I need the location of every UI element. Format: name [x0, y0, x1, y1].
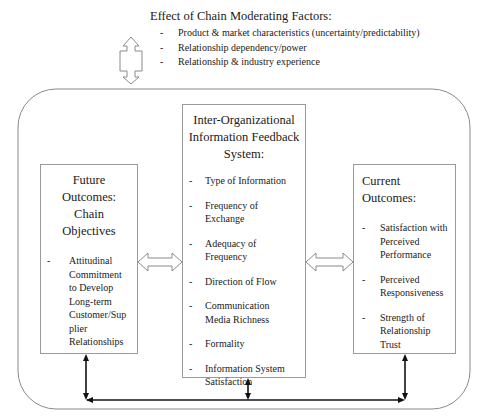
factor-text: Product & market characteristics (uncert… [178, 26, 420, 41]
bullet-dash: - [41, 254, 69, 349]
text-line: Responsiveness [380, 286, 455, 300]
item-text: Perceived Responsiveness [380, 273, 455, 300]
list-item: - Satisfaction with Perceived Performanc… [354, 221, 455, 262]
text-line: Perceived [380, 273, 455, 287]
bullet-dash: - [354, 273, 380, 300]
title-line: Chain [41, 206, 137, 223]
list-item: - Direction of Flow [183, 275, 305, 289]
title-line: Future [41, 172, 137, 189]
box-title: Future Outcomes: Chain Objectives [41, 172, 137, 240]
title-line: Inter-Organizational [183, 112, 305, 129]
bullet-dash: - [160, 41, 178, 56]
bullet-dash: - [183, 275, 205, 289]
bullet-dash: - [183, 299, 205, 326]
title-line: Information Feedback [183, 129, 305, 146]
text-line: Frequency of [205, 199, 305, 213]
list-item: - Type of Information [183, 174, 305, 188]
list-item: - Adequacy of Frequency [183, 237, 305, 264]
bullet-dash: - [160, 55, 178, 70]
bullet-dash: - [183, 174, 205, 188]
item-text: Formality [205, 337, 305, 351]
text-line: Trust [380, 338, 455, 352]
text-line: Satisfaction [205, 375, 305, 389]
factor-text: Relationship dependency/power [178, 41, 307, 56]
moderating-factors-title: Effect of Chain Moderating Factors: [150, 9, 332, 24]
text-line: Relationship [380, 324, 455, 338]
item-text: Communication Media Richness [205, 299, 305, 326]
list-item: - Relationship & industry experience [160, 55, 420, 70]
bullet-dash: - [183, 362, 205, 389]
text-line: Customer/Sup [69, 308, 137, 322]
item-text: Satisfaction with Perceived Performance [380, 221, 455, 262]
list-item: - Information System Satisfaction [183, 362, 305, 389]
moderating-factors-list: - Product & market characteristics (unce… [160, 26, 420, 70]
text-line: Long-term [69, 295, 137, 309]
item-text: Information System Satisfaction [205, 362, 305, 389]
left-right-hollow-arrow-icon [306, 253, 353, 271]
item-text: Adequacy of Frequency [205, 237, 305, 264]
bullet-dash: - [183, 337, 205, 351]
text-line: to Develop [69, 281, 137, 295]
bullet-dash: - [183, 237, 205, 264]
list-item: - Frequency of Exchange [183, 199, 305, 226]
text-line: Adequacy of [205, 237, 305, 251]
text-line: Media Richness [205, 313, 305, 327]
box-title: Inter-Organizational Information Feedbac… [183, 112, 305, 163]
item-text: Direction of Flow [205, 275, 305, 289]
list-item: - Product & market characteristics (unce… [160, 26, 420, 41]
box-title: Current Outcomes: [354, 173, 455, 207]
text-line: Exchange [205, 212, 305, 226]
text-line: Attitudinal [69, 254, 137, 268]
text-line: plier [69, 322, 137, 336]
text-line: Type of Information [205, 174, 305, 188]
title-line: Objectives [41, 223, 137, 240]
future-outcomes-box: Future Outcomes: Chain Objectives - Atti… [40, 164, 138, 354]
text-line: Strength of [380, 311, 455, 325]
information-feedback-system-box: Inter-Organizational Information Feedbac… [182, 104, 306, 378]
bullet-dash: - [354, 311, 380, 352]
left-right-hollow-arrow-icon [138, 253, 182, 271]
bullet-dash: - [183, 199, 205, 226]
list-item: - Strength of Relationship Trust [354, 311, 455, 352]
title-line: Current [362, 173, 455, 190]
text-line: Direction of Flow [205, 275, 305, 289]
text-line: Information System [205, 362, 305, 376]
list-item: - Relationship dependency/power [160, 41, 420, 56]
text-line: Satisfaction with [380, 221, 455, 235]
list-item: - Attitudinal Commitment to Develop Long… [41, 254, 137, 349]
text-line: Perceived [380, 235, 455, 249]
current-outcomes-box: Current Outcomes: - Satisfaction with Pe… [353, 164, 456, 354]
text-line: Formality [205, 337, 305, 351]
title-line: Outcomes: [362, 190, 455, 207]
list-item: - Communication Media Richness [183, 299, 305, 326]
text-line: Performance [380, 248, 455, 262]
text-line: Frequency [205, 250, 305, 264]
text-line: Commitment [69, 268, 137, 282]
text-line: Communication [205, 299, 305, 313]
list-item: - Perceived Responsiveness [354, 273, 455, 300]
up-down-hollow-arrow-icon [120, 37, 142, 84]
bullet-dash: - [354, 221, 380, 262]
item-text: Frequency of Exchange [205, 199, 305, 226]
list-item: - Formality [183, 337, 305, 351]
factor-text: Relationship & industry experience [178, 55, 320, 70]
title-line: Outcomes: [41, 189, 137, 206]
item-text: Attitudinal Commitment to Develop Long-t… [69, 254, 137, 349]
title-line: System: [183, 146, 305, 163]
bullet-dash: - [160, 26, 178, 41]
item-text: Type of Information [205, 174, 305, 188]
text-line: Relationships [69, 335, 137, 349]
item-text: Strength of Relationship Trust [380, 311, 455, 352]
